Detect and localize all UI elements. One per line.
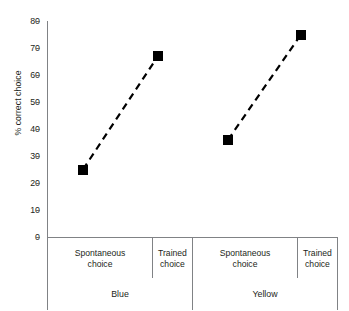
category-text-line1: Trained: [158, 248, 187, 258]
group-label-yellow: Yellow: [193, 282, 337, 306]
category-text-line1: Spontaneous: [75, 248, 126, 258]
group-label-blue: Blue: [48, 282, 192, 306]
data-point-marker: [296, 30, 306, 40]
y-axis-tick-mark: [36, 102, 40, 103]
chart-figure: % correct choice 01020304050607080 Spont…: [0, 0, 349, 311]
data-point-marker: [78, 165, 88, 175]
y-axis-tick-mark: [36, 183, 40, 184]
y-axis-tick-mark: [36, 21, 40, 22]
group-label-text: Blue: [111, 289, 129, 299]
category-blue-trained: Trained choice: [153, 242, 192, 276]
category-text-line2: choice: [305, 259, 330, 269]
category-yellow-trained: Trained choice: [298, 242, 337, 276]
trend-line-blue: [83, 56, 158, 169]
plot-area: [47, 21, 338, 237]
data-point-marker: [223, 135, 233, 145]
category-yellow-spontaneous: Spontaneous choice: [193, 242, 297, 276]
y-axis-tick-column: 01020304050607080: [14, 0, 40, 311]
y-axis-tick-mark: [36, 48, 40, 49]
data-point-marker: [153, 51, 163, 61]
category-text-line2: choice: [88, 259, 113, 269]
trend-line-yellow: [228, 35, 301, 140]
category-text-line2: choice: [233, 259, 258, 269]
category-text-line1: Trained: [303, 248, 332, 258]
connector-lines: [47, 21, 338, 237]
y-axis-tick-mark: [36, 129, 40, 130]
y-axis-tick-mark: [36, 237, 40, 238]
category-text-line1: Spontaneous: [220, 248, 271, 258]
category-blue-spontaneous: Spontaneous choice: [48, 242, 152, 276]
group-label-text: Yellow: [252, 289, 277, 299]
y-axis-tick-mark: [36, 210, 40, 211]
y-axis-tick-mark: [36, 156, 40, 157]
category-text-line2: choice: [160, 259, 185, 269]
y-axis-tick-mark: [36, 75, 40, 76]
category-label-box: Spontaneous choice Trained choice Sponta…: [47, 238, 338, 310]
